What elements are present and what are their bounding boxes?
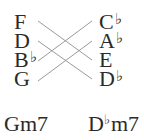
right-note-dflat: D♭ bbox=[99, 68, 123, 92]
note-letter: D bbox=[99, 66, 115, 91]
flat-sign: ♭ bbox=[116, 68, 123, 84]
note-letter: G bbox=[14, 66, 30, 91]
flat-sign: ♭ bbox=[30, 49, 37, 65]
chord-name: Gm7 bbox=[4, 111, 48, 136]
chord-root: D bbox=[88, 111, 104, 136]
flat-sign: ♭ bbox=[104, 112, 110, 127]
flat-sign: ♭ bbox=[116, 30, 123, 46]
left-note-g: G bbox=[14, 68, 31, 92]
chord-quality: m7 bbox=[111, 111, 139, 136]
flat-sign: ♭ bbox=[115, 11, 122, 27]
left-chord-label: Gm7 bbox=[4, 113, 48, 135]
right-chord-label: D♭m7 bbox=[88, 113, 139, 138]
